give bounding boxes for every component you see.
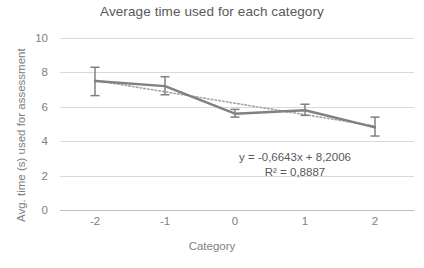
chart-container: Average time used for each category 10 8… <box>0 0 424 268</box>
x-tick-0: 0 <box>232 215 238 227</box>
x-tick-2: 2 <box>372 215 378 227</box>
x-tick-1: 1 <box>302 215 308 227</box>
y-tick-10: 10 <box>14 32 48 44</box>
x-axis-title: Category <box>0 240 424 252</box>
trendline-equation: y = -0,6643x + 8,2006 <box>200 150 390 165</box>
x-tick--1: -1 <box>160 215 170 227</box>
trendline-annotation: y = -0,6643x + 8,2006 R² = 0,8887 <box>200 150 390 180</box>
y-axis-ticks: 10 8 6 4 2 0 <box>0 0 424 268</box>
trendline-r-squared: R² = 0,8887 <box>200 165 390 180</box>
x-tick--2: -2 <box>90 215 100 227</box>
y-axis-title: Avg. time (s) used for assessment <box>15 48 27 222</box>
